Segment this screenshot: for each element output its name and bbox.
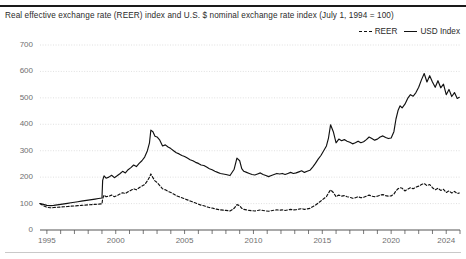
x-axis-tick-label: 2005 — [165, 236, 205, 245]
y-axis-tick-label: 200 — [5, 172, 33, 181]
x-axis-tick-label: 1995 — [27, 236, 67, 245]
x-axis-tick-label: 2010 — [233, 236, 273, 245]
chart-figure: Real effective exchange rate (REER) inde… — [0, 0, 466, 259]
series-line-usd-index — [40, 74, 459, 206]
y-axis-tick-label: 300 — [5, 146, 33, 155]
y-axis-tick-label: 500 — [5, 93, 33, 102]
y-axis-tick-label: 600 — [5, 66, 33, 75]
plot-canvas — [0, 0, 466, 259]
y-axis-tick-label: 700 — [5, 40, 33, 49]
x-axis-tick-label: 2020 — [371, 236, 411, 245]
x-axis-tick-label: 2015 — [302, 236, 342, 245]
figure-bottom-rule — [5, 252, 461, 253]
y-axis-tick-label: 0 — [5, 225, 33, 234]
x-tick-marks-group — [47, 230, 460, 234]
x-axis-tick-label: 2024 — [426, 236, 466, 245]
y-axis-tick-label: 100 — [5, 199, 33, 208]
x-axis-tick-label: 2000 — [96, 236, 136, 245]
y-axis-tick-label: 400 — [5, 119, 33, 128]
